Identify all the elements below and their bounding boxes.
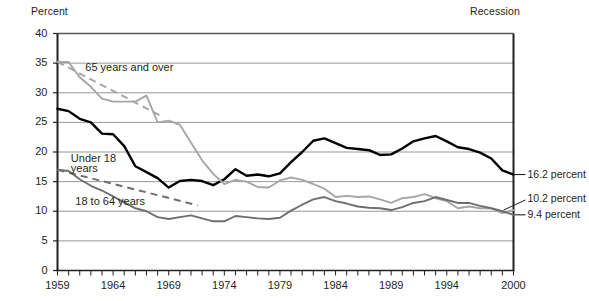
y-tick-label-40: 40 [22,27,48,39]
annotation-3: 18 to 64 years [75,195,145,207]
y-tick-label-0: 0 [22,264,48,276]
y-tick-label-10: 10 [22,204,48,216]
x-tick-label-2000: 2000 [492,279,536,291]
end-label-65-years-and-over: 10.2 percent [528,192,586,204]
y-axis-title: Percent [31,5,68,17]
x-tick-label-1994: 1994 [425,279,469,291]
end-label-18-to-64-years: 9.4 percent [528,208,581,220]
end-label-under-18-years: 16.2 percent [528,168,586,180]
y-tick-label-30: 30 [22,86,48,98]
y-tick-label-5: 5 [22,234,48,246]
y-tick-label-15: 15 [22,175,48,187]
x-tick-label-1974: 1974 [202,279,246,291]
annotation-2: years [71,162,98,174]
x-tick-label-1959: 1959 [36,279,80,291]
x-tick-label-1984: 1984 [314,279,358,291]
y-tick-label-35: 35 [22,56,48,68]
plot-area [0,0,589,301]
y-tick-label-20: 20 [22,145,48,157]
x-tick-label-1969: 1969 [147,279,191,291]
y-tick-label-25: 25 [22,115,48,127]
x-tick-label-1989: 1989 [369,279,413,291]
x-tick-label-1964: 1964 [91,279,135,291]
series-line-65-years-and-over [58,62,514,213]
annotation-0: 65 years and over [85,61,173,73]
poverty-rate-line-chart: Percent Recession 0510152025303540 19591… [0,0,589,301]
recession-note: Recession [470,5,520,17]
x-tick-label-1979: 1979 [258,279,302,291]
series-line-under-18-years [58,109,514,188]
